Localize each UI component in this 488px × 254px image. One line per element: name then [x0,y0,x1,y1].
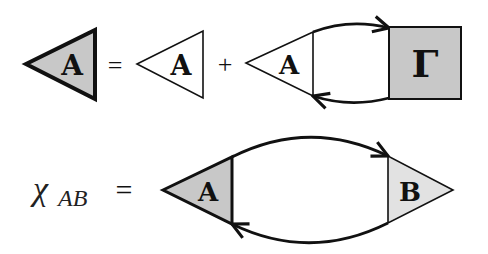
ladder-term: A Γ [246,24,461,103]
propagator-arrow-left-icon [313,96,389,103]
vertex-label: A [60,49,84,82]
vertex-label: A [278,50,300,80]
propagator-arrow-right-icon [313,24,389,32]
full-vertex-a: A [26,30,95,99]
vertex-label-a: A [197,177,219,207]
equation-1: A = A + A Γ [26,24,461,103]
plus-sign: + [218,50,233,79]
chi-subscript: AB [56,185,88,211]
vertex-label: A [170,50,193,81]
equals-sign: = [116,173,133,206]
diagram-canvas: A = A + A Γ χ AB = A B [0,0,488,254]
vertex-label-b: B [399,177,421,207]
equals-sign: = [108,51,123,80]
propagator-arrow-right-icon [232,137,388,157]
bubble-diagram: A B [163,137,453,243]
gamma-label: Γ [412,41,439,86]
equation-2: χ AB = A B [30,137,453,243]
propagator-arrow-left-icon [232,223,388,243]
bare-vertex-a: A [137,31,203,98]
chi-symbol: χ [30,170,49,207]
